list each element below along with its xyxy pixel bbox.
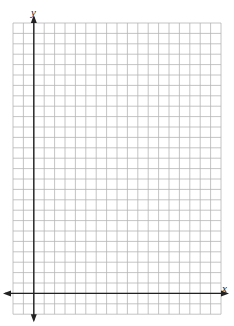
x-axis — [3, 290, 229, 296]
x-axis-label: x — [222, 282, 227, 294]
x-axis-left-arrow-icon — [3, 290, 11, 296]
y-axis-label: y — [31, 6, 36, 18]
coordinate-grid — [0, 0, 234, 326]
y-axis-bottom-arrow-icon — [31, 314, 37, 322]
